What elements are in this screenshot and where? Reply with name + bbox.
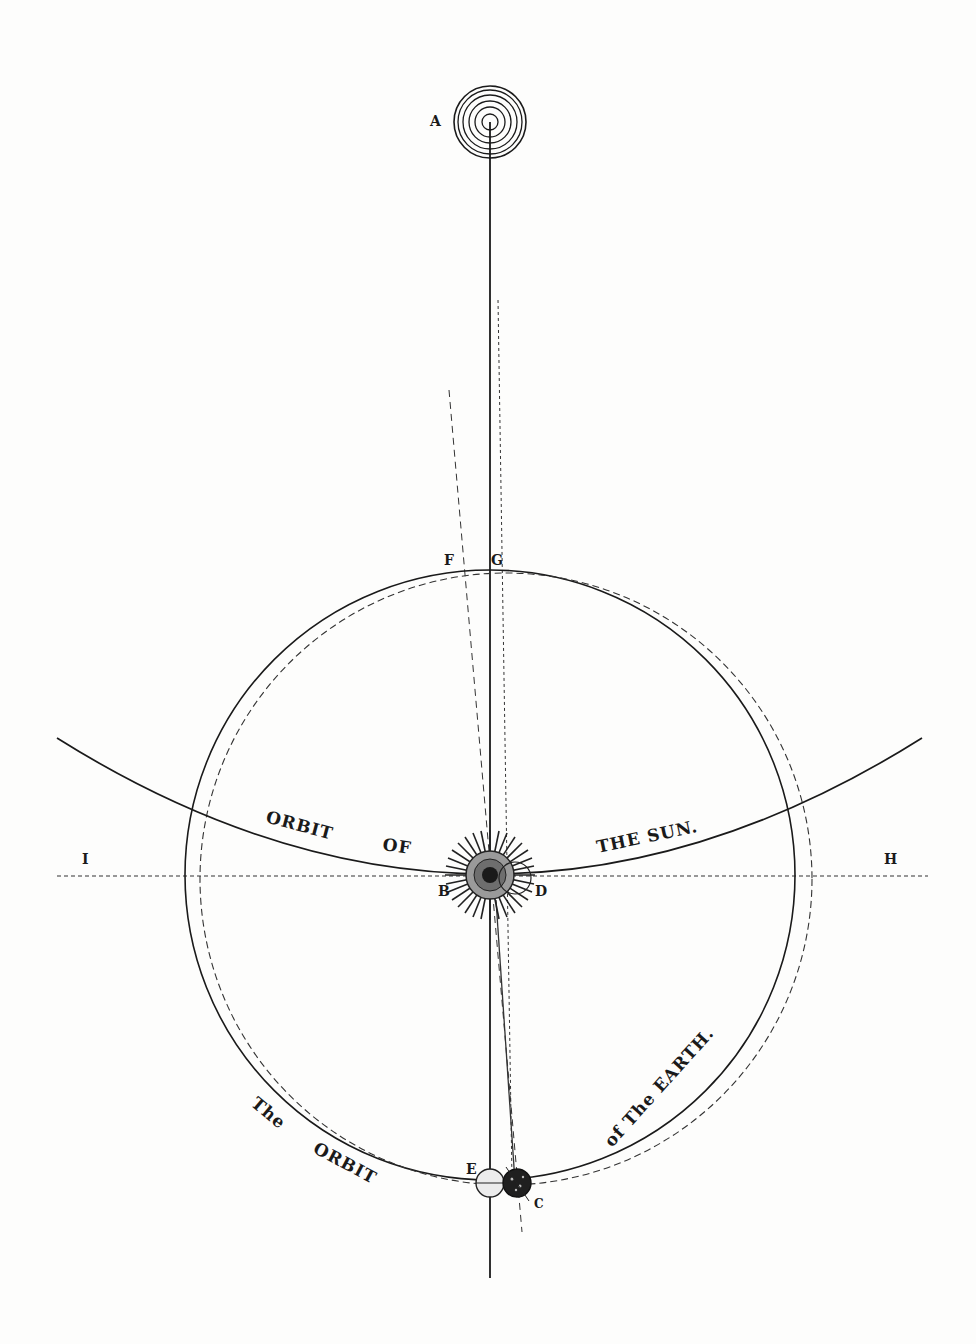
label-g: G: [491, 552, 503, 568]
dotted-line-g: [498, 300, 512, 1180]
label-c: C: [534, 1197, 544, 1211]
label-f: F: [444, 552, 454, 568]
diagram-plate: A F G B D E C I H ORBIT OF THE SUN. The …: [0, 0, 976, 1344]
label-a: A: [429, 113, 442, 129]
label-e: E: [466, 1161, 477, 1177]
label-h: H: [884, 851, 897, 867]
orbit-diagram: A F G B D E C I H ORBIT OF THE SUN. The …: [0, 0, 976, 1344]
label-i: I: [82, 851, 89, 867]
caption-sun-orbit-3: THE SUN.: [595, 816, 700, 857]
label-b: B: [438, 883, 450, 899]
caption-sun-orbit-2: OF: [381, 834, 412, 858]
dashed-line-d: [496, 900, 515, 1182]
sun-icon: [445, 830, 535, 920]
caption-earth-orbit-3: of The EARTH.: [600, 1023, 718, 1151]
caption-earth-orbit-2: ORBIT: [310, 1138, 380, 1188]
caption-sun-orbit-1: ORBIT: [264, 807, 336, 844]
earth-c-icon: [503, 1167, 531, 1201]
label-d: D: [535, 883, 547, 899]
earth-e-icon: [476, 1169, 504, 1197]
